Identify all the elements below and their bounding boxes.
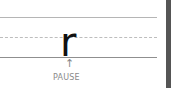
right-edge-bar	[166, 0, 171, 88]
top-guide-line	[0, 17, 157, 18]
up-arrow-icon: ↑	[65, 58, 74, 69]
baseline	[0, 57, 157, 58]
letter-r: r	[60, 22, 76, 62]
pause-label: PAUSE	[53, 73, 80, 82]
midline-dashed	[0, 37, 157, 38]
